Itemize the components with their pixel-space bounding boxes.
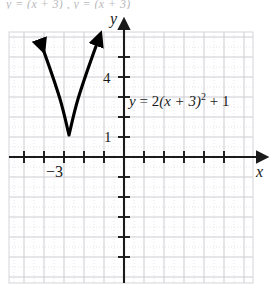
- y-axis-label: y: [110, 10, 117, 28]
- x-axis-label: x: [256, 163, 263, 181]
- coordinate-plane: [0, 0, 274, 292]
- y-tick-label-1: 1: [104, 129, 112, 146]
- equation-lhs: y: [129, 93, 136, 109]
- x-tick-label-minus-3: −3: [46, 163, 63, 181]
- equation-binomial: (x + 3): [159, 93, 201, 109]
- y-tick-label-4: 4: [103, 70, 111, 87]
- equation-constant: 1: [222, 93, 230, 109]
- equation-equals: =: [139, 93, 147, 109]
- equation-plus: +: [210, 93, 218, 109]
- equation-label: y = 2(x + 3)2 + 1: [129, 93, 229, 110]
- graph-figure: y = (x + 3) , y = (x + 3): [0, 0, 274, 292]
